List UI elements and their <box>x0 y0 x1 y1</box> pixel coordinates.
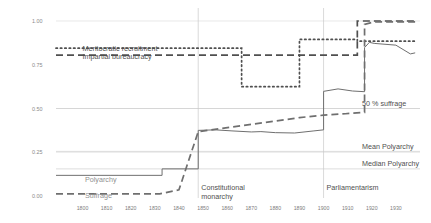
x-tick-1930: 1930 <box>390 205 402 211</box>
series-inline-labels: Meritocratic recruitmentImpartial bureau… <box>83 44 158 200</box>
impartial-bureaucracy-label: Impartial bureaucracy <box>83 52 153 61</box>
x-tick-1850: 1850 <box>197 205 209 211</box>
reference-line-labels: 50 % suffrageMean PolyarchyMedian Polyar… <box>362 99 420 168</box>
x-tick-1900: 1900 <box>318 205 330 211</box>
x-tick-1830: 1830 <box>149 205 161 211</box>
x-tick-1870: 1870 <box>245 205 257 211</box>
x-axis-tick-labels: 1800181018201830184018501860187018801890… <box>77 205 402 211</box>
event-line-labels: ConstitutionalmonarchyParliamentarism <box>201 183 378 201</box>
event-label-parliamentarism: Parliamentarism <box>327 183 379 192</box>
polyarchy-bureaucracy-chart: 1800181018201830184018501860187018801890… <box>0 0 431 223</box>
x-tick-1810: 1810 <box>101 205 113 211</box>
x-tick-1920: 1920 <box>366 205 378 211</box>
x-tick-1800: 1800 <box>77 205 89 211</box>
event-label-constitutional-monarchy-line2: monarchy <box>201 192 233 201</box>
x-tick-1910: 1910 <box>342 205 354 211</box>
reference-label-50-suffrage: 50 % suffrage <box>362 99 406 108</box>
reference-label-median-polyarchy: Median Polyarchy <box>362 159 420 168</box>
polyarchy-label: Polyarchy <box>85 175 117 184</box>
y-tick-0.75: 0.75 <box>32 62 43 68</box>
y-tick-0.25: 0.25 <box>32 149 43 155</box>
x-tick-1820: 1820 <box>125 205 137 211</box>
event-lines <box>198 8 323 198</box>
y-tick-0.00: 0.00 <box>32 193 43 199</box>
x-tick-1840: 1840 <box>173 205 185 211</box>
event-label-constitutional-monarchy: Constitutional <box>201 183 245 192</box>
x-tick-1860: 1860 <box>221 205 233 211</box>
x-tick-1890: 1890 <box>294 205 306 211</box>
reference-label-mean-polyarchy: Mean Polyarchy <box>362 142 414 151</box>
y-axis-tick-labels: 0.000.250.500.751.00 <box>32 18 43 199</box>
chart-container: 1800181018201830184018501860187018801890… <box>0 0 431 223</box>
y-tick-0.50: 0.50 <box>32 106 43 112</box>
y-tick-1.00: 1.00 <box>32 18 43 24</box>
x-tick-1880: 1880 <box>270 205 282 211</box>
suffrage-label: Suffrage <box>85 191 112 200</box>
meritocratic-recruitment-label: Meritocratic recruitment <box>83 44 158 53</box>
